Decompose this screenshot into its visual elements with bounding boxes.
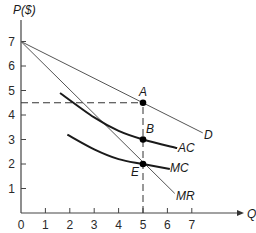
x-axis-title: Q: [247, 207, 256, 221]
y-tick-label: 1: [8, 182, 15, 196]
label-mr: MR: [176, 189, 195, 203]
point-e: [140, 161, 147, 168]
x-axis-arrow-icon: [237, 210, 244, 216]
curve-mc: [67, 135, 169, 169]
y-tick-label: 7: [8, 35, 15, 49]
curve-mr: [21, 42, 175, 194]
label-a: A: [138, 85, 147, 99]
label-b: B: [146, 122, 154, 136]
point-b: [140, 136, 147, 143]
x-tick-label: 5: [140, 218, 147, 232]
y-tick-label: 6: [8, 59, 15, 73]
label-d: D: [204, 128, 213, 142]
curve-d: [21, 42, 203, 133]
x-tick-label: 6: [164, 218, 171, 232]
y-axis-title: P($): [13, 3, 36, 17]
label-mc: MC: [170, 161, 189, 175]
y-tick-label: 4: [8, 108, 15, 122]
chart: P($) Q 012345671234567 DACMCMRABE: [0, 0, 256, 233]
label-ac: AC: [177, 141, 195, 155]
reference-lines: [21, 103, 143, 213]
x-tick-label: 4: [115, 218, 122, 232]
label-e: E: [131, 165, 140, 179]
x-tick-label: 1: [42, 218, 49, 232]
x-tick-label: 3: [91, 218, 98, 232]
x-tick-label: 0: [18, 218, 25, 232]
x-tick-label: 2: [66, 218, 73, 232]
y-tick-label: 5: [8, 84, 15, 98]
x-tick-label: 7: [188, 218, 195, 232]
y-tick-label: 2: [8, 157, 15, 171]
point-a: [140, 99, 147, 106]
y-tick-label: 3: [8, 133, 15, 147]
tick-group: 012345671234567: [8, 35, 195, 233]
